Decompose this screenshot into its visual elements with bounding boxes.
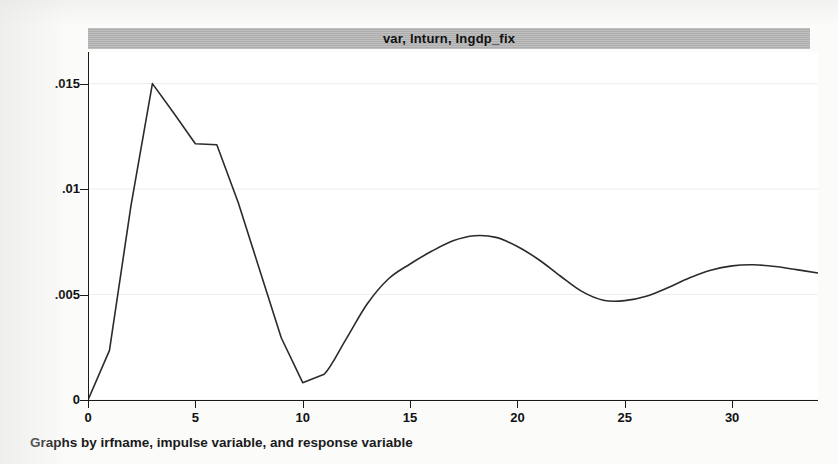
chart-title: var, lnturn, lngdp_fix	[383, 31, 515, 46]
y-axis-line	[88, 52, 89, 400]
chart-title-bar: var, lnturn, lngdp_fix	[88, 28, 810, 49]
y-tick-mark	[80, 400, 88, 401]
x-tick-mark	[732, 401, 733, 408]
y-tick-label: .01	[8, 181, 80, 196]
x-axis-line	[88, 400, 818, 401]
figure-caption: Graphs by irfname, impulse variable, and…	[30, 435, 413, 450]
x-tick-label: 0	[68, 410, 108, 425]
y-tick-label: .005	[8, 287, 80, 302]
stata-irf-figure: var, lnturn, lngdp_fix 0.005.01.015 0510…	[0, 0, 838, 464]
x-tick-mark	[88, 401, 89, 408]
gridlines	[88, 84, 818, 400]
x-tick-mark	[195, 401, 196, 408]
x-tick-mark	[410, 401, 411, 408]
x-tick-label: 15	[390, 410, 430, 425]
y-tick-mark	[80, 84, 88, 85]
response-line	[88, 84, 818, 400]
y-tick-label: .015	[8, 76, 80, 91]
plot-area	[88, 52, 818, 400]
y-tick-label: 0	[8, 392, 80, 407]
x-tick-label: 5	[175, 410, 215, 425]
x-tick-mark	[517, 401, 518, 408]
x-tick-label: 30	[712, 410, 752, 425]
x-tick-mark	[625, 401, 626, 408]
x-tick-label: 20	[497, 410, 537, 425]
y-tick-mark	[80, 189, 88, 190]
impulse-response-plot	[88, 52, 818, 400]
x-tick-label: 25	[605, 410, 645, 425]
x-tick-mark	[303, 401, 304, 408]
y-tick-mark	[80, 295, 88, 296]
x-tick-label: 10	[283, 410, 323, 425]
